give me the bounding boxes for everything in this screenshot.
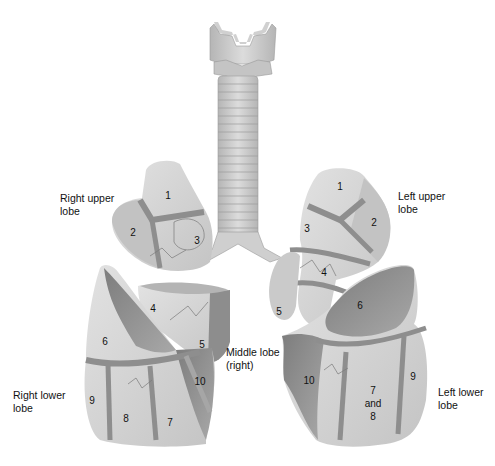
seg-rm-5: 5 [199,339,205,350]
seg-rl-6: 6 [102,336,108,347]
label-middle-lobe: Middle lobe (right) [226,346,280,371]
seg-ll-9: 9 [410,371,416,382]
seg-ll-7: 7 [370,385,376,396]
right-upper-lobe [112,161,213,271]
label-right-upper-lobe: Right upper lobe [60,192,114,217]
lung-segments-diagram: 1 2 3 4 5 6 7 8 9 10 1 2 3 4 5 6 7 and 8… [0,0,495,466]
seg-rl-7: 7 [167,417,173,428]
seg-ll-10: 10 [303,375,315,386]
seg-rl-8: 8 [123,413,129,424]
seg-rl-9: 9 [89,395,95,406]
seg-ru-1: 1 [165,190,171,201]
seg-ru-3: 3 [194,235,200,246]
label-line: lobe [13,402,66,415]
label-line: lobe [438,399,484,412]
label-line: lobe [398,203,445,216]
label-line: Middle lobe [226,346,280,359]
seg-lu-3: 3 [304,223,310,234]
label-line: Right lower [13,389,66,402]
seg-lu-4: 4 [321,267,327,278]
seg-lu-5: 5 [276,306,282,317]
seg-rl-10: 10 [194,376,206,387]
label-line: Left lower [438,386,484,399]
label-line: lobe [60,205,114,218]
label-left-upper-lobe: Left upper lobe [398,190,445,215]
seg-ll-and: and [365,398,382,409]
label-right-lower-lobe: Right lower lobe [13,389,66,414]
label-left-lower-lobe: Left lower lobe [438,386,484,411]
seg-lu-2: 2 [371,217,377,228]
seg-ll-6: 6 [357,300,363,311]
label-line: (right) [226,359,280,372]
seg-ll-8: 8 [370,411,376,422]
label-line: Left upper [398,190,445,203]
label-line: Right upper [60,192,114,205]
seg-ru-2: 2 [130,227,136,238]
larynx [210,22,276,80]
seg-lu-1: 1 [337,181,343,192]
seg-rm-4: 4 [150,303,156,314]
